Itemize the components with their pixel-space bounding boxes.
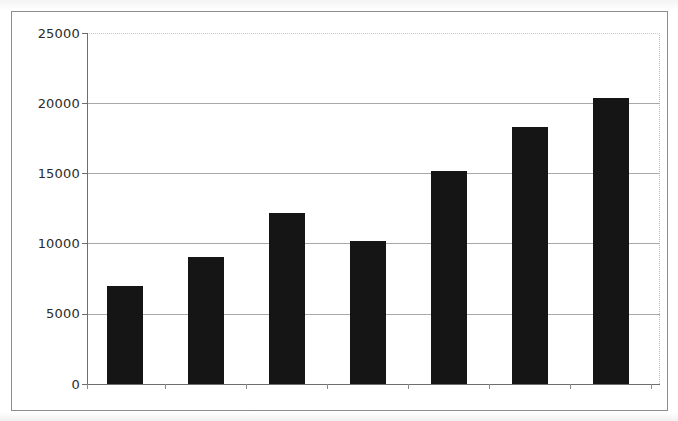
x-axis-tick-mark-0	[87, 384, 88, 389]
y-axis-tick-label-10000: 10000	[22, 236, 80, 251]
gridline-15000	[87, 173, 660, 174]
scan-edge-bottom	[0, 412, 678, 421]
bar-2003[interactable]	[269, 213, 305, 384]
x-axis-line	[87, 384, 660, 385]
x-axis-tick-mark-1	[165, 384, 166, 389]
y-axis-tick-label-0: 0	[22, 377, 80, 392]
x-axis-tick-mark-4	[408, 384, 409, 389]
x-axis-tick-mark-5	[489, 384, 490, 389]
chart-screenshot: 0 5000 10000 15000 20000 25000	[0, 0, 678, 421]
bar-2001[interactable]	[107, 286, 143, 384]
x-axis-tick-mark-7	[651, 384, 652, 389]
bar-2006[interactable]	[512, 127, 548, 384]
gridline-20000	[87, 103, 660, 104]
bar-2007[interactable]	[593, 98, 629, 384]
bar-2002[interactable]	[188, 257, 224, 384]
plot-area: 2001 2002 2003 2004 2005 2006 2007	[87, 33, 660, 384]
y-axis-tick-label-20000: 20000	[22, 96, 80, 111]
scan-edge-top	[0, 0, 678, 10]
y-axis-tick-label-25000: 25000	[22, 26, 80, 41]
bar-2004[interactable]	[350, 241, 386, 384]
x-axis-tick-mark-3	[327, 384, 328, 389]
y-axis-line	[87, 33, 88, 384]
x-axis-tick-mark-6	[570, 384, 571, 389]
bar-2005[interactable]	[431, 171, 467, 384]
plot-right-edge	[659, 33, 660, 384]
y-axis-tick-label-15000: 15000	[22, 166, 80, 181]
x-axis-tick-mark-2	[246, 384, 247, 389]
gridline-25000	[87, 33, 660, 34]
y-axis-tick-label-5000: 5000	[22, 306, 80, 321]
